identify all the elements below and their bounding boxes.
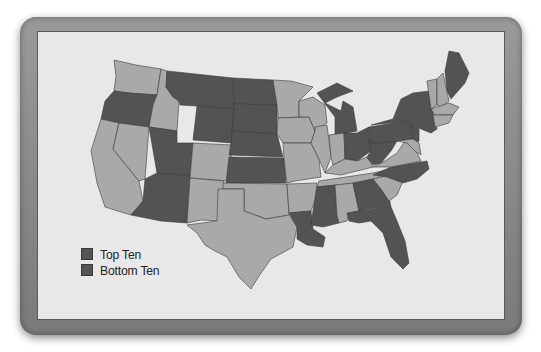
legend-item-bottom-ten: Bottom Ten bbox=[81, 262, 166, 278]
map-panel: Top Ten Bottom Ten bbox=[37, 31, 505, 320]
legend-swatch-top-ten bbox=[81, 248, 93, 260]
state-connecticut-ri bbox=[433, 115, 453, 127]
legend-swatch-bottom-ten bbox=[81, 264, 93, 276]
state-maine bbox=[445, 51, 469, 99]
legend-label-top-ten: Top Ten bbox=[100, 247, 141, 262]
state-south-dakota bbox=[232, 104, 277, 134]
state-wyoming bbox=[193, 106, 234, 143]
state-kansas bbox=[226, 157, 286, 183]
state-arkansas bbox=[287, 183, 317, 213]
state-colorado bbox=[190, 143, 232, 181]
state-iowa bbox=[277, 117, 315, 143]
map-legend: Top Ten Bottom Ten bbox=[81, 246, 166, 278]
legend-item-top-ten: Top Ten bbox=[81, 246, 166, 262]
legend-label-bottom-ten: Bottom Ten bbox=[100, 263, 159, 278]
state-utah bbox=[149, 127, 193, 176]
state-north-dakota bbox=[233, 78, 277, 105]
state-washington bbox=[114, 60, 161, 95]
state-florida bbox=[347, 207, 409, 269]
state-nebraska bbox=[229, 131, 283, 157]
